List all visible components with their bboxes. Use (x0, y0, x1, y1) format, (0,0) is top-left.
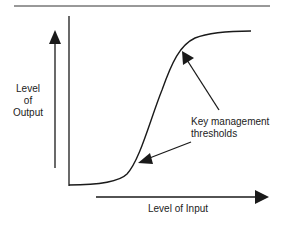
upper-threshold-pointer (187, 60, 219, 110)
y-axis-label-line: Output (8, 107, 48, 119)
s-curve (69, 31, 251, 185)
y-axis-label: Level of Output (8, 83, 48, 119)
lower-threshold-arrow-head (138, 153, 153, 164)
x-axis-label: Level of Input (148, 203, 208, 215)
annotation-line: Key management (191, 116, 269, 128)
annotation-line: thresholds (191, 128, 269, 140)
input-arrow-head (255, 190, 269, 204)
output-arrow-head (49, 30, 61, 44)
lower-threshold-pointer (147, 142, 191, 159)
y-axis-label-line: Level (8, 83, 48, 95)
y-axis-label-line: of (8, 95, 48, 107)
upper-threshold-arrow-head (182, 51, 194, 65)
threshold-annotation: Key management thresholds (191, 116, 269, 140)
